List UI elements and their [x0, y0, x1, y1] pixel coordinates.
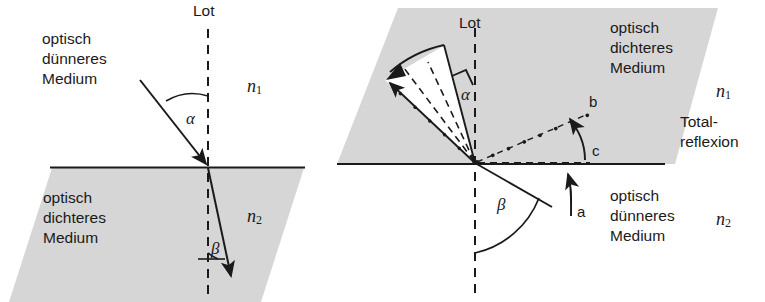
left-angle-alpha-label: α: [186, 109, 196, 128]
right-arrow-a-curve: [568, 174, 571, 216]
figure-svg: Lot optisch dünneres Medium optisch dich…: [0, 0, 765, 302]
right-index-upper-sub: 1: [725, 88, 731, 102]
left-index-upper-letter: n: [247, 76, 256, 96]
right-lower-medium-line1: optisch: [610, 187, 659, 204]
right-lower-medium-line2: dünneres: [610, 207, 675, 224]
left-normal-label: Lot: [193, 2, 215, 19]
right-phenomenon-line1: Total-: [680, 113, 718, 130]
left-angle-beta-label: β: [210, 239, 220, 258]
right-ray-b-label: b: [589, 93, 597, 110]
left-index-lower-sub: 2: [256, 213, 262, 227]
right-angle-alpha-label: α: [461, 85, 471, 104]
left-incident-ray: [140, 80, 206, 164]
left-alpha-arc: [166, 94, 208, 101]
right-upper-medium-line2: dichteres: [610, 39, 673, 56]
left-upper-medium-line3: Medium: [42, 70, 97, 87]
right-beta-arc: [475, 198, 539, 253]
right-diagram-group: Lot optisch dichteres Medium n1 Total- r…: [337, 8, 739, 296]
right-index-upper-letter: n: [716, 81, 725, 101]
right-index-lower: n2: [716, 209, 731, 230]
left-upper-medium-line2: dünneres: [42, 50, 107, 67]
right-upper-medium-line3: Medium: [610, 59, 665, 76]
right-normal-label: Lot: [459, 14, 481, 31]
right-phenomenon-line2: reflexion: [680, 133, 739, 150]
left-lower-medium-line1: optisch: [43, 189, 92, 206]
left-lower-medium-line3: Medium: [43, 229, 98, 246]
right-ray-a-label: a: [577, 203, 586, 220]
right-lower-medium-line3: Medium: [610, 227, 665, 244]
right-ray-c-label: c: [592, 142, 600, 159]
right-angle-beta-label: β: [496, 195, 506, 214]
left-lower-medium-line2: dichteres: [43, 209, 106, 226]
right-index-upper: n1: [716, 81, 731, 102]
left-diagram-group: Lot optisch dünneres Medium optisch dich…: [9, 2, 305, 302]
right-upper-medium-line1: optisch: [610, 19, 659, 36]
right-index-lower-sub: 2: [725, 216, 731, 230]
physics-figure-refraction-total-reflection: Lot optisch dünneres Medium optisch dich…: [0, 0, 765, 302]
left-upper-medium-line1: optisch: [42, 30, 91, 47]
right-incident-ray-a: [475, 163, 552, 207]
left-index-upper: n1: [247, 76, 262, 97]
left-index-lower-letter: n: [247, 206, 256, 226]
left-index-upper-sub: 1: [256, 83, 262, 97]
right-index-lower-letter: n: [716, 209, 725, 229]
